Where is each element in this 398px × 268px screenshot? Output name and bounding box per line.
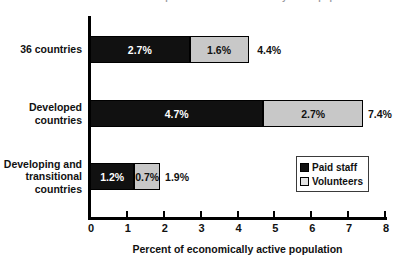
legend-item-paid-staff[interactable]: Paid staff xyxy=(300,160,363,174)
x-tick-label: 2 xyxy=(153,222,177,234)
category-label: Developedcountries xyxy=(0,101,82,126)
x-tick-mark xyxy=(347,211,349,218)
legend-swatch-volunteers xyxy=(300,177,309,186)
bar-segment-volunteers[interactable]: 2.7% xyxy=(263,100,363,127)
x-tick-label: 6 xyxy=(300,222,324,234)
x-tick-mark xyxy=(126,211,128,218)
category-label: 36 countries xyxy=(0,43,82,56)
x-tick-label: 5 xyxy=(263,222,287,234)
x-tick-mark xyxy=(163,211,165,218)
bar-segment-paid-staff[interactable]: 4.7% xyxy=(90,100,263,127)
x-tick-mark xyxy=(89,211,91,218)
x-tick-label: 8 xyxy=(374,222,398,234)
legend-label-paid-staff: Paid staff xyxy=(312,162,357,173)
x-tick-label: 7 xyxy=(337,222,361,234)
x-tick-label: 4 xyxy=(227,222,251,234)
chart-legend: Paid staff Volunteers xyxy=(296,156,369,192)
bar-segment-volunteers[interactable]: 1.6% xyxy=(190,36,249,63)
x-tick-mark xyxy=(237,211,239,218)
chart-title: Paid staff and volunteers as a percent o… xyxy=(0,0,398,4)
x-tick-mark xyxy=(273,211,275,218)
bar-segment-paid-staff[interactable]: 1.2% xyxy=(90,163,134,190)
bar-segment-paid-staff[interactable]: 2.7% xyxy=(90,36,190,63)
x-tick-label: 1 xyxy=(116,222,140,234)
x-tick-mark xyxy=(384,211,386,218)
legend-item-volunteers[interactable]: Volunteers xyxy=(300,174,363,188)
x-tick-label: 0 xyxy=(79,222,103,234)
bar-segment-volunteers[interactable]: 0.7% xyxy=(134,163,160,190)
x-axis-title: Percent of economically active populatio… xyxy=(90,243,385,255)
bar-chart: Paid staff and volunteers as a percent o… xyxy=(0,0,398,268)
legend-swatch-paid-staff xyxy=(300,163,309,172)
x-tick-mark xyxy=(310,211,312,218)
x-tick-mark xyxy=(200,211,202,218)
legend-label-volunteers: Volunteers xyxy=(312,176,363,187)
bar-total-label: 7.4% xyxy=(363,100,392,127)
x-tick-label: 3 xyxy=(190,222,214,234)
bar-total-label: 4.4% xyxy=(252,36,281,63)
bar-total-label: 1.9% xyxy=(160,163,189,190)
category-label: Developing andtransitionalcountries xyxy=(0,158,82,196)
